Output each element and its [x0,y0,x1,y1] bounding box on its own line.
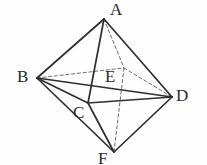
edge-DF [114,97,172,152]
edge-CF [88,103,114,152]
vertex-label-c: C [73,104,84,121]
vertex-label-d: D [176,87,188,104]
octahedron-figure: ABCDEF [0,0,207,165]
vertex-label-e: E [105,68,115,85]
edge-ED [124,68,172,97]
edge-CD [88,97,172,103]
vertex-label-f: F [98,150,107,165]
vertex-label-b: B [17,68,28,85]
edge-EF [114,68,124,152]
octahedron-svg [0,0,207,165]
vertex-label-a: A [110,1,122,18]
edge-AE [104,19,124,68]
